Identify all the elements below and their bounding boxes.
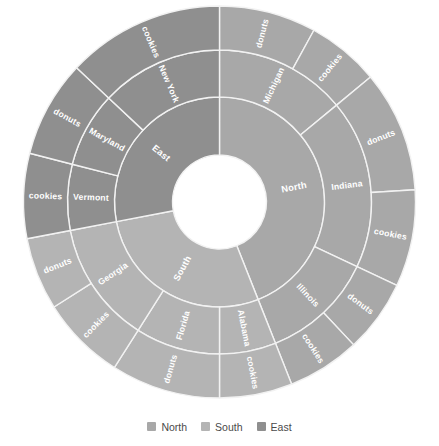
legend-swatch-icon [257,422,266,431]
legend-label: South [215,422,242,433]
legend-item[interactable]: North [147,422,187,433]
ring-state [68,50,372,354]
sunburst-chart: NorthSouthEastMichiganIndianaIllinoisAla… [0,0,439,446]
slice-label: cookies [29,190,63,201]
legend-label: East [271,422,292,433]
ring-region [114,97,324,307]
legend-label: North [161,422,187,433]
chart-legend: NorthSouthEast [0,422,439,433]
slice-label: Vermont [73,192,109,203]
legend-swatch-icon [147,422,156,431]
legend-item[interactable]: East [257,422,292,433]
sunburst-svg: NorthSouthEastMichiganIndianaIllinoisAla… [0,0,439,446]
legend-item[interactable]: South [201,422,242,433]
legend-swatch-icon [201,422,210,431]
